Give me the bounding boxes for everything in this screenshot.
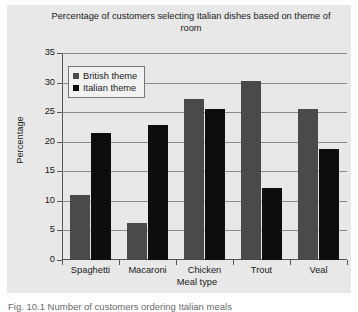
x-axis-tick: [347, 260, 348, 265]
bar: [319, 149, 339, 260]
y-axis-tick: [57, 171, 62, 172]
bar: [91, 133, 111, 260]
y-axis-label: Percentage: [15, 100, 25, 180]
chart-panel: Percentage of customers selecting Italia…: [7, 5, 351, 293]
bar: [184, 99, 204, 260]
x-axis-tick-label: Chicken: [176, 265, 233, 275]
legend-item-british[interactable]: British theme: [73, 70, 137, 82]
legend-label: British theme: [83, 71, 137, 81]
figure-caption: Fig. 10.1 Number of customers ordering I…: [8, 301, 348, 312]
y-axis-tick-label: 10: [28, 195, 55, 205]
bar: [70, 195, 90, 260]
y-axis-tick-label: 15: [28, 165, 55, 175]
chart-title: Percentage of customers selecting Italia…: [41, 11, 341, 34]
y-axis-tick: [57, 230, 62, 231]
chart-legend: British theme Italian theme: [68, 66, 145, 98]
bar: [241, 81, 261, 260]
legend-swatch-icon: [73, 85, 79, 91]
bar: [205, 109, 225, 260]
bar: [262, 188, 282, 260]
bar: [298, 109, 318, 260]
y-axis-tick-label: 25: [28, 106, 55, 116]
x-axis-tick-label: Macaroni: [119, 265, 176, 275]
y-axis-tick-label: 0: [28, 254, 55, 264]
y-axis-tick-label: 5: [28, 224, 55, 234]
y-axis-tick-label: 30: [28, 77, 55, 87]
bar: [127, 223, 147, 260]
y-axis-tick: [57, 112, 62, 113]
x-axis-tick-label: Veal: [290, 265, 347, 275]
y-axis-tick: [57, 201, 62, 202]
bar-chart-figure: Percentage of customers selecting Italia…: [0, 0, 358, 312]
y-axis-tick-label: 20: [28, 136, 55, 146]
legend-label: Italian theme: [83, 83, 136, 93]
y-axis-tick: [57, 142, 62, 143]
x-axis-tick-label: Trout: [233, 265, 290, 275]
legend-swatch-icon: [73, 73, 79, 79]
legend-item-italian[interactable]: Italian theme: [73, 82, 137, 94]
x-axis-tick-label: Spaghetti: [62, 265, 119, 275]
y-axis-tick: [57, 53, 62, 54]
bar: [148, 125, 168, 260]
gridline: [62, 53, 347, 54]
y-axis-tick-label: 35: [28, 47, 55, 57]
y-axis-tick: [57, 83, 62, 84]
x-axis-label: Meal type: [47, 277, 347, 287]
